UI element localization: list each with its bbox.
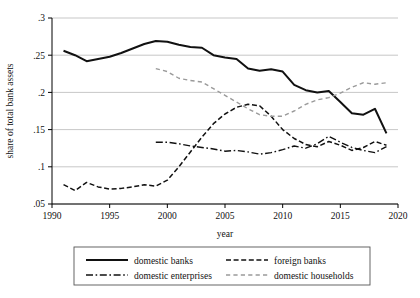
y-axis-title: share of total bank assets: [5, 63, 15, 158]
legend-label-domestic-banks: domestic banks: [134, 256, 193, 266]
y-tick-label: .05: [33, 199, 45, 209]
legend-label-foreign-banks: foreign banks: [274, 256, 326, 266]
legend-label-domestic-enterprises: domestic enterprises: [134, 271, 212, 281]
x-tick-label: 2010: [273, 211, 292, 221]
y-tick-label: .1: [38, 162, 45, 172]
x-tick-label: 2020: [389, 211, 408, 221]
legend-label-domestic-households: domestic households: [274, 271, 354, 281]
x-tick-label: 2005: [216, 211, 235, 221]
chart-container: 1990199520002005201020152020 .05.1.15.2.…: [0, 0, 420, 298]
x-tick-label: 1995: [100, 211, 119, 221]
chart-legend: domestic banksforeign banksdomestic ente…: [74, 247, 370, 285]
y-tick-label: .15: [33, 125, 45, 135]
y-tick-label: .2: [38, 88, 45, 98]
x-tick-label: 2000: [158, 211, 177, 221]
line-chart: 1990199520002005201020152020 .05.1.15.2.…: [0, 0, 420, 298]
x-axis-title: year: [217, 229, 234, 239]
y-tick-label: .3: [38, 13, 45, 23]
x-tick-label: 1990: [43, 211, 62, 221]
y-tick-label: .25: [33, 51, 45, 61]
x-tick-label: 2015: [331, 211, 350, 221]
